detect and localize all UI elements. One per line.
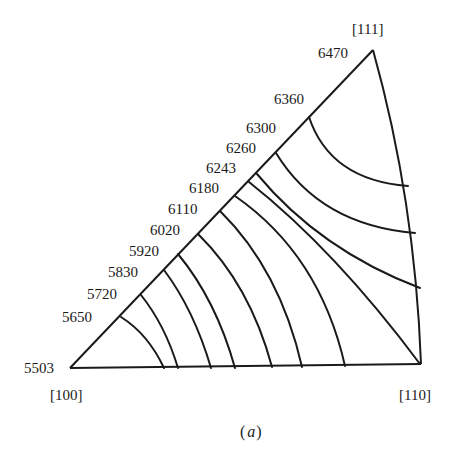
contour-6300 (309, 117, 408, 186)
contour-5650 (121, 317, 164, 368)
value-label-5720: 5720 (87, 286, 117, 302)
triangle-outline (70, 50, 421, 368)
value-label-6360: 6360 (274, 91, 304, 107)
edge-110-111-arc (373, 50, 421, 364)
label-110: [110] (399, 387, 431, 403)
value-label-6020: 6020 (150, 222, 180, 238)
value-label-6243: 6243 (206, 160, 236, 176)
contour-5830 (164, 270, 211, 368)
figure-caption: (a) (240, 423, 262, 441)
value-label-6300: 6300 (246, 120, 276, 136)
label-111: [111] (352, 21, 383, 37)
value-label-6180: 6180 (189, 180, 219, 196)
contour-6110 (220, 211, 302, 367)
label-100: [100] (50, 387, 83, 403)
value-labels: 6470 5503 6360 6300 6260 6243 6180 6110 … (24, 45, 348, 376)
value-label-6260: 6260 (226, 140, 256, 156)
edge-100-110 (70, 364, 421, 368)
value-label-5503: 5503 (24, 360, 54, 376)
contour-6260 (276, 153, 415, 233)
direction-labels: [111] [100] [110] (50, 21, 431, 403)
contour-6180-a (235, 196, 345, 366)
edge-100-111 (70, 50, 373, 368)
contour-5720 (141, 295, 178, 368)
value-label-5830: 5830 (108, 264, 138, 280)
contour-lines (121, 117, 420, 368)
value-label-5650: 5650 (62, 309, 92, 325)
standard-triangle-figure: [111] [100] [110] 6470 5503 6360 6300 62… (0, 0, 456, 465)
value-label-5920: 5920 (129, 243, 159, 259)
value-label-6470: 6470 (318, 45, 348, 61)
value-label-6110: 6110 (168, 201, 197, 217)
